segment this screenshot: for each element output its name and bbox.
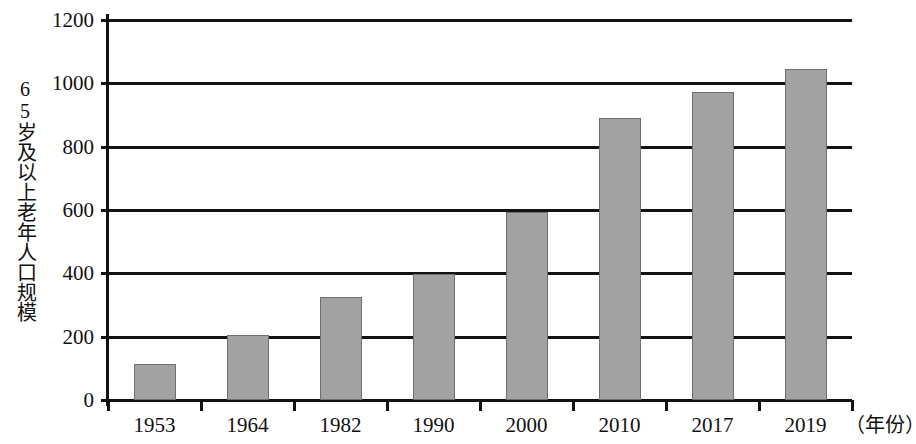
x-axis-tick [200,400,203,411]
gridline [101,209,852,212]
gridline [101,146,852,149]
x-axis-tick-label: 1990 [387,414,480,436]
bar [506,212,548,400]
y-axis-tick-labels: 020040060080010001200 [22,0,94,444]
x-axis-tick [665,400,668,411]
y-axis-tick-label: 400 [32,263,94,284]
y-axis-tick-label: 800 [32,136,94,157]
x-axis-tick [386,400,389,411]
y-axis-tick-label: 1200 [32,10,94,31]
bar [320,297,362,400]
x-axis-tick [851,400,854,411]
y-axis-tick-label: 600 [32,200,94,221]
bar [134,364,176,400]
gridline [101,19,852,22]
bar [413,274,455,400]
x-axis-baseline [101,399,852,402]
x-axis-tick-label: 1953 [108,414,201,436]
x-axis-tick [293,400,296,411]
bar [599,118,641,400]
gridline [101,272,852,275]
x-axis-tick [479,400,482,411]
x-axis-tick [758,400,761,411]
x-axis-tick-label: 1964 [201,414,294,436]
bar [227,335,269,400]
bar [785,69,827,400]
plot-area [108,20,852,400]
x-axis-tick-label: 1982 [294,414,387,436]
gridline [101,82,852,85]
x-axis-tick-label: 2019 [759,414,852,436]
x-axis-tick [107,400,110,411]
x-axis-tick-label: 2017 [666,414,759,436]
x-axis-tick-label: 2000 [480,414,573,436]
y-axis-tick-label: 1000 [32,73,94,94]
y-axis-tick-label: 0 [32,390,94,411]
x-axis-tick-label: 2010 [573,414,666,436]
bar [692,92,734,400]
y-axis-tick-label: 200 [32,326,94,347]
x-axis-unit-label: （年份） [845,414,916,436]
gridline [101,336,852,339]
x-axis-tick [572,400,575,411]
